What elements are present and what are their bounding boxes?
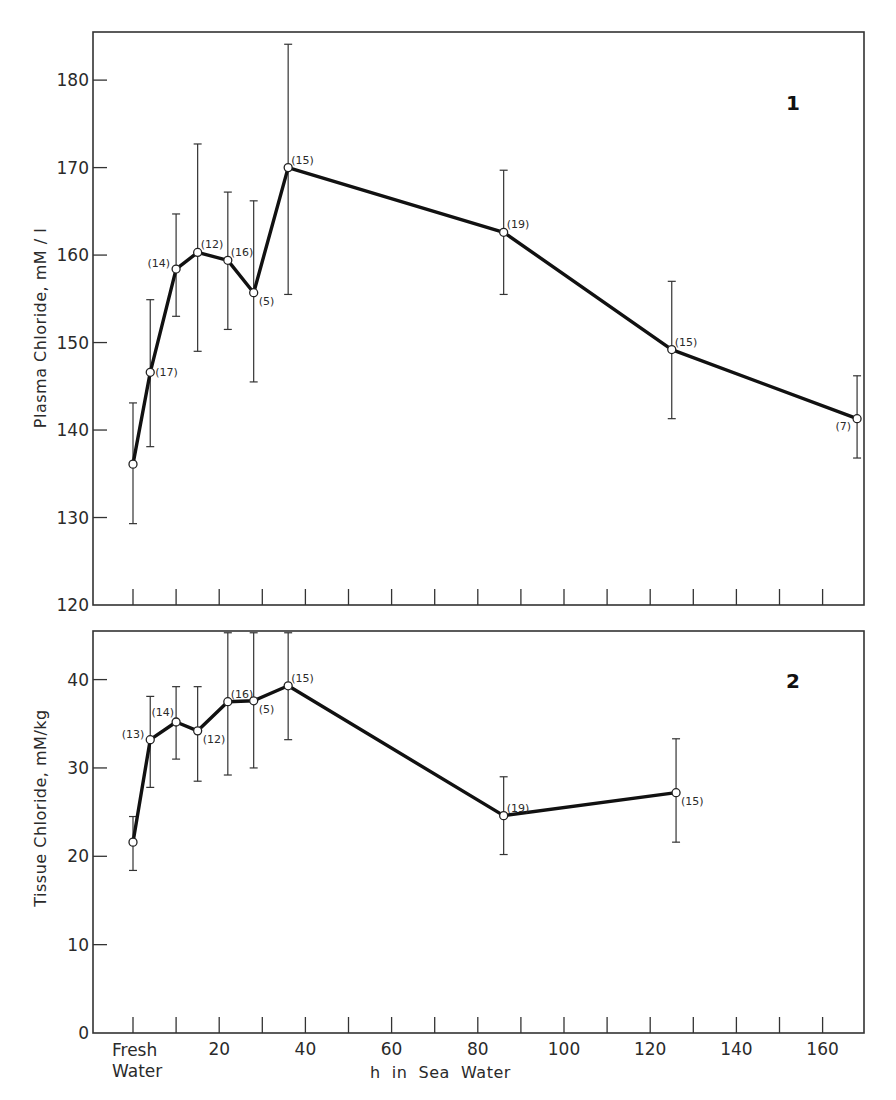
y-tick-label: 40 xyxy=(67,670,89,690)
y-tick-label: 150 xyxy=(57,333,89,353)
y-tick-label: 0 xyxy=(78,1023,89,1043)
chart-canvas: 120130140150160170180Plasma Chloride, mM… xyxy=(0,0,896,1100)
y-tick-label: 180 xyxy=(57,70,89,90)
fresh-water-label-line2: Water xyxy=(112,1061,162,1081)
y-tick-label: 120 xyxy=(57,595,89,615)
x-tick-label: 140 xyxy=(720,1039,752,1059)
y-tick-label: 30 xyxy=(67,758,89,778)
fresh-water-label-line1: Fresh xyxy=(112,1040,157,1060)
panel-number: 2 xyxy=(786,669,800,693)
data-point-marker xyxy=(146,368,154,376)
x-tick-label: 80 xyxy=(467,1039,489,1059)
data-point-marker xyxy=(129,460,137,468)
y-axis-title: Tissue Chloride, mM/kg xyxy=(31,709,50,907)
sample-size-label: (12) xyxy=(203,733,226,746)
y-tick-label: 130 xyxy=(57,508,89,528)
y-tick-label: 170 xyxy=(57,158,89,178)
y-axis-title: Plasma Chloride, mM / l xyxy=(31,228,50,428)
sample-size-label: (15) xyxy=(291,672,314,685)
y-tick-label: 140 xyxy=(57,420,89,440)
sample-size-label: (17) xyxy=(155,366,178,379)
data-point-marker xyxy=(853,415,861,423)
data-line xyxy=(133,686,676,842)
data-line xyxy=(133,168,857,465)
plasma-chloride-panel: 120130140150160170180Plasma Chloride, mM… xyxy=(31,32,864,615)
sample-size-label: (13) xyxy=(122,728,145,741)
sample-size-label: (15) xyxy=(675,336,698,349)
x-tick-label: 100 xyxy=(548,1039,580,1059)
y-tick-label: 160 xyxy=(57,245,89,265)
data-point-marker xyxy=(172,265,180,273)
x-tick-label: 120 xyxy=(634,1039,666,1059)
sample-size-label: (14) xyxy=(148,257,171,270)
sample-size-label: (7) xyxy=(835,420,851,433)
sample-size-label: (15) xyxy=(681,795,704,808)
sample-size-label: (19) xyxy=(507,802,530,815)
y-tick-label: 10 xyxy=(67,935,89,955)
data-point-marker xyxy=(250,289,258,297)
plot-frame xyxy=(93,631,864,1033)
data-point-marker xyxy=(672,789,680,797)
sample-size-label: (16) xyxy=(231,246,254,259)
sample-size-label: (12) xyxy=(201,238,224,251)
data-point-marker xyxy=(146,736,154,744)
data-point-marker xyxy=(194,727,202,735)
sample-size-label: (5) xyxy=(259,295,275,308)
sample-size-label: (15) xyxy=(291,154,314,167)
figure: 120130140150160170180Plasma Chloride, mM… xyxy=(0,0,896,1100)
x-tick-label: 20 xyxy=(208,1039,230,1059)
tissue-chloride-panel: 01020304020406080100120140160Tissue Chlo… xyxy=(31,631,864,1059)
sample-size-label: (19) xyxy=(507,218,530,231)
x-axis-title: h in Sea Water xyxy=(370,1063,511,1082)
panel-number: 1 xyxy=(786,91,800,115)
data-point-marker xyxy=(129,838,137,846)
x-tick-label: 60 xyxy=(381,1039,403,1059)
x-tick-label: 40 xyxy=(295,1039,317,1059)
data-point-marker xyxy=(250,697,258,705)
y-tick-label: 20 xyxy=(67,846,89,866)
data-point-marker xyxy=(172,718,180,726)
x-tick-label: 160 xyxy=(806,1039,838,1059)
sample-size-label: (5) xyxy=(259,703,275,716)
sample-size-label: (14) xyxy=(152,706,175,719)
plot-frame xyxy=(93,32,864,605)
